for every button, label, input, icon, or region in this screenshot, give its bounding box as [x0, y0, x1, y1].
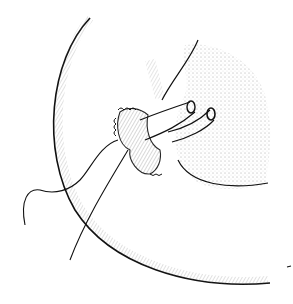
gland-tissue: [150, 40, 270, 189]
sutured-cuff: [114, 108, 162, 176]
surgical-illustration-svg: [0, 0, 293, 304]
mark: [287, 266, 291, 267]
illustration: [0, 0, 293, 304]
